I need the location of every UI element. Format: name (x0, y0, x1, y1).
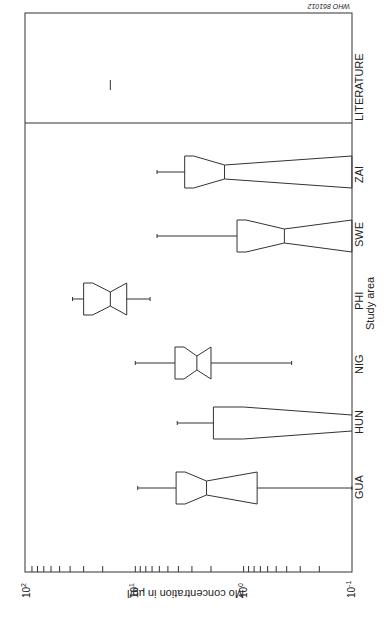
y-axis-title: Mo concentration in µg/l (127, 588, 244, 600)
boxes (73, 80, 352, 504)
category-label-zai: ZAI (353, 166, 365, 183)
category-label-gua: GUA (353, 475, 365, 499)
tick-label: 102 (20, 583, 32, 598)
box-phi (73, 283, 151, 315)
category-label-literature: LITERATURE (353, 53, 365, 121)
category-label-hun: HUN (353, 410, 365, 434)
boxplot-chart (0, 0, 387, 618)
corner-code: WHO 861012 (308, 3, 350, 10)
x-axis-title: Study area (364, 277, 376, 330)
box-hun (177, 407, 352, 439)
category-label-swe: SWE (353, 222, 365, 247)
axis-ticks (32, 566, 319, 572)
category-label-nig: NIG (353, 354, 365, 374)
box-nig (135, 347, 291, 379)
tick-label: 10-1 (345, 581, 357, 598)
box-zai (157, 156, 352, 188)
box-gua (138, 472, 352, 504)
box-swe (157, 220, 352, 252)
